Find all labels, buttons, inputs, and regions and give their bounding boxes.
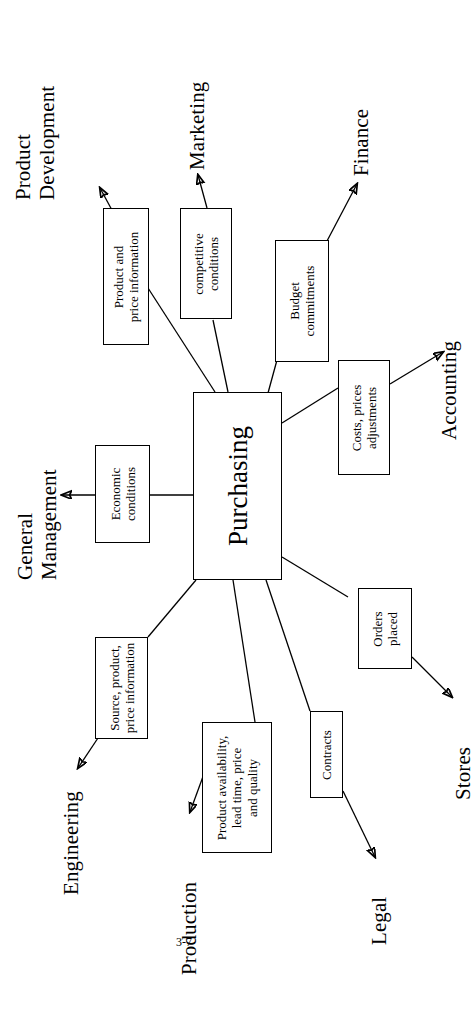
dept-label-stores: Stores [452, 747, 475, 800]
flow-box-competitive-conditions: competitive conditions [180, 208, 232, 319]
wire-hub-to-costs-prices [282, 388, 338, 423]
flow-box-label: Orders placed [370, 611, 401, 646]
slide-canvas: Product Development Marketing Finance Ac… [0, 0, 475, 1011]
wire-hub-to-contracts [266, 580, 310, 711]
flow-box-source-product-price-information: Source, product, price information [95, 637, 148, 739]
dept-label-product-development: Product Development [12, 86, 59, 200]
flow-box-product-and-price-information: Product and price information [103, 208, 149, 345]
arrow-costs-prices-to-accounting [390, 352, 443, 384]
arrow-source-product-price-to-engineering [78, 738, 98, 768]
flow-box-label: Product availability, lead time, price a… [214, 735, 260, 840]
dept-label-general-management: General Management [14, 469, 61, 580]
flow-box-label: Economic conditions [107, 467, 138, 521]
dept-label-accounting: Accounting [438, 341, 461, 440]
wire-hub-to-product-availability [233, 580, 255, 722]
dept-label-production: Production [178, 882, 201, 975]
flow-box-label: Source, product, price information [106, 643, 137, 734]
flow-box-contracts: Contracts [310, 711, 343, 798]
flow-box-budget-commitments: Budget commitments [275, 240, 329, 362]
arrow-competitive-conditions-to-marketing [198, 175, 207, 208]
flow-box-product-availability: Product availability, lead time, price a… [202, 722, 272, 853]
wire-hub-to-competitive-conditions [213, 320, 228, 392]
wire-hub-to-orders-placed [282, 557, 348, 597]
flow-box-label: Product and price information [111, 231, 142, 322]
hub-box-label: Purchasing [222, 426, 253, 546]
wire-hub-to-source-product-price [148, 580, 196, 637]
flow-box-economic-conditions: Economic conditions [95, 445, 150, 543]
flow-box-label: competitive conditions [191, 233, 222, 294]
page-number: 3-7 [176, 935, 192, 950]
flow-box-orders-placed: Orders placed [358, 588, 412, 669]
dept-label-engineering: Engineering [60, 791, 83, 895]
dept-label-marketing: Marketing [186, 82, 209, 170]
arrow-budget-commitments-to-finance [327, 184, 357, 241]
dept-label-legal: Legal [368, 897, 391, 945]
arrow-contracts-to-legal [343, 791, 375, 857]
hub-box-purchasing: Purchasing [193, 392, 282, 580]
flow-box-label: Costs, prices adjustments [349, 384, 380, 450]
dept-label-finance: Finance [350, 109, 373, 176]
flow-box-label: Contracts [319, 730, 334, 780]
flow-box-label: Budget commitments [287, 266, 318, 337]
wire-hub-to-budget-commitments [268, 360, 277, 393]
flow-box-costs-prices-adjustments: Costs, prices adjustments [338, 360, 390, 475]
arrow-orders-placed-to-stores [412, 657, 452, 697]
